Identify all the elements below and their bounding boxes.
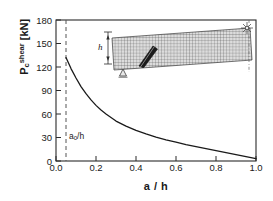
beam-mesh	[112, 28, 252, 70]
x-axis-title: a / h	[56, 180, 256, 192]
x-tick-label: 0.8	[199, 163, 233, 172]
y-tick-marks	[56, 20, 61, 161]
chart-figure: Pcshear [kN] 180 150 120 90 60 30 0	[0, 0, 273, 201]
data-curve	[66, 58, 256, 159]
x-tick-label: 0.2	[79, 163, 113, 172]
x-tick-label: 0.6	[159, 163, 193, 172]
x-tick-label: 0.4	[119, 163, 153, 172]
a0-over-h-annotation: a0/h	[69, 131, 84, 141]
x-tick-label: 1.0	[239, 163, 273, 172]
x-tick-marks	[56, 156, 256, 161]
inset-fem-diagram	[104, 20, 253, 77]
roller-support-triangle	[119, 69, 128, 77]
height-dimension-arrow	[104, 32, 112, 64]
x-tick-label: 0.0	[39, 163, 73, 172]
inset-h-label: h	[98, 42, 103, 52]
a0-annotation-rest: /h	[77, 131, 84, 141]
